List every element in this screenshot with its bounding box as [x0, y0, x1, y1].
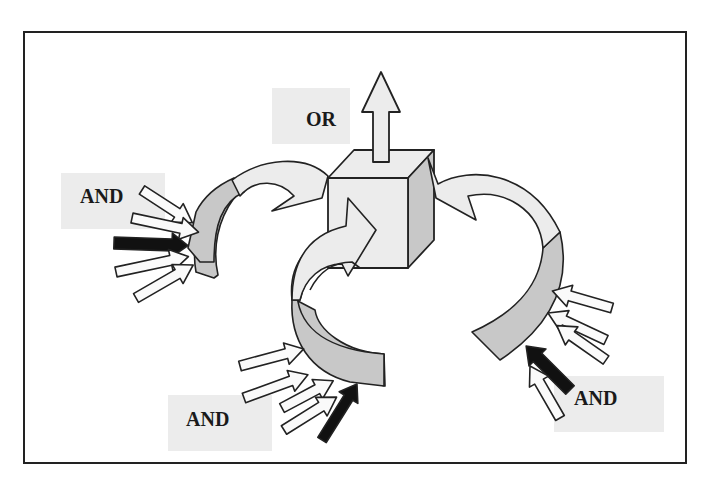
and-right-label: AND: [574, 387, 617, 410]
left-input-arrows: [114, 181, 201, 308]
right-curved-arrow: [428, 158, 563, 360]
and-or-diagram: OR AND AND AND: [0, 0, 708, 479]
or-label: OR: [306, 108, 336, 131]
and-left-label: AND: [80, 185, 123, 208]
and-bottom-label: AND: [186, 408, 229, 431]
or-output-arrow: [362, 72, 400, 162]
bottom-input-arrow-1: [237, 338, 306, 376]
